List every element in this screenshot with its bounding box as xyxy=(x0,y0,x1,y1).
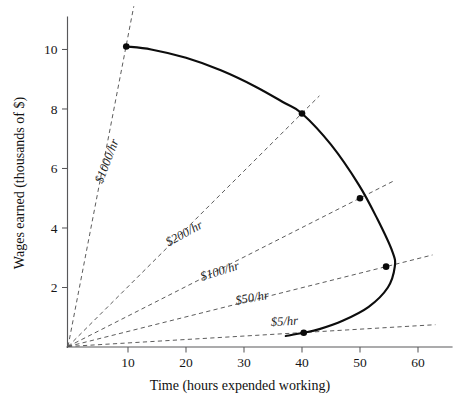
data-point-marker xyxy=(300,329,307,336)
x-tick-label: 50 xyxy=(353,355,367,370)
x-tick-label: 10 xyxy=(121,355,135,370)
data-point-marker xyxy=(383,263,390,270)
y-axis-title: Wages earned (thousands of $) xyxy=(12,97,28,270)
x-tick-label: 30 xyxy=(237,355,251,370)
y-tick-label: 10 xyxy=(44,42,58,57)
x-tick-label: 20 xyxy=(179,355,193,370)
y-tick-label: 8 xyxy=(51,102,58,117)
chart-tick-labels: 102030405060246810 xyxy=(44,42,425,370)
data-point-marker xyxy=(299,110,306,117)
iso-wage-ray-label: $1000/hr xyxy=(92,137,122,185)
iso-wage-ray-label: $100/hr xyxy=(199,259,241,284)
chart-plot-area: 102030405060246810 $1000/hr$200/hr$100/h… xyxy=(0,0,454,403)
x-axis-title: Time (hours expended working) xyxy=(150,378,331,394)
data-point-marker xyxy=(357,195,364,202)
y-tick-label: 4 xyxy=(51,221,58,236)
iso-wage-ray xyxy=(68,325,435,347)
iso-wage-ray-label: $200/hr xyxy=(163,218,205,250)
data-point-marker xyxy=(123,43,130,50)
iso-wage-rate-labels: $1000/hr$200/hr$100/hr$50/hr$5/hr xyxy=(92,137,298,329)
iso-wage-ray-label: $5/hr xyxy=(270,314,298,329)
x-tick-label: 60 xyxy=(411,355,425,370)
y-tick-label: 6 xyxy=(51,161,58,176)
y-tick-label: 2 xyxy=(51,280,58,295)
iso-wage-ray-label: $50/hr xyxy=(234,288,270,308)
x-tick-label: 40 xyxy=(295,355,309,370)
chart-figure: 102030405060246810 $1000/hr$200/hr$100/h… xyxy=(0,0,454,403)
